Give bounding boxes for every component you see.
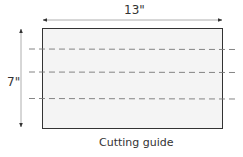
- cut-line-3: [29, 99, 236, 100]
- width-label: 13": [124, 3, 145, 17]
- cut-line-2: [29, 72, 236, 73]
- cut-line-1: [29, 49, 236, 50]
- cutting-diagram: [0, 0, 243, 157]
- height-label: 7": [7, 75, 20, 89]
- fabric-rectangle: [43, 29, 223, 129]
- caption: Cutting guide: [99, 136, 174, 149]
